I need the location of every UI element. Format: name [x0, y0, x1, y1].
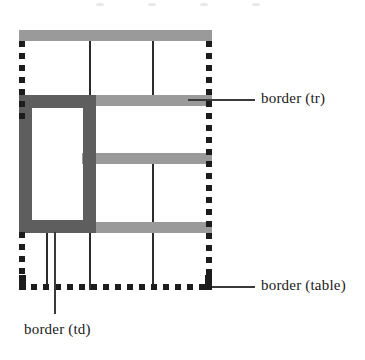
leader-line-tr [188, 99, 255, 101]
scan-artifact [200, 3, 208, 6]
table-border-right [206, 41, 212, 290]
leader-line-td [54, 232, 56, 314]
leader-line-table [212, 286, 255, 288]
table-border-bottom [19, 284, 212, 290]
table-border-corner-bottom-left [19, 275, 26, 290]
label-border-tr: border (tr) [261, 90, 325, 107]
label-border-td: border (td) [24, 321, 91, 338]
scan-artifact [252, 3, 260, 6]
scan-artifact [96, 3, 104, 6]
diagram-canvas: border (tr) border (table) border (td) [0, 0, 365, 360]
label-border-table: border (table) [261, 277, 346, 294]
table-outer-border [19, 30, 212, 290]
table-border-left-upper [19, 41, 25, 125]
scan-artifact [148, 3, 156, 6]
table-border-corner-bottom-right [205, 275, 212, 290]
